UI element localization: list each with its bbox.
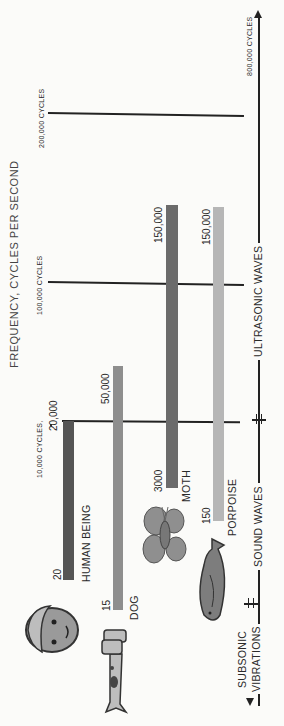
- human-face-icon: [20, 600, 84, 660]
- moth-icon: [140, 505, 190, 565]
- bar-high-dog: 50,000: [100, 373, 111, 404]
- bar-human: [63, 421, 74, 580]
- region-sound: SOUND WAVES: [252, 483, 264, 570]
- region-ultrasonic: ULTRASONIC WAVES: [252, 243, 264, 360]
- bar-low-human: 20: [52, 569, 63, 580]
- bar-name-human: HUMAN BEING: [80, 505, 92, 582]
- bar-moth: [166, 205, 178, 488]
- divider-sound-ultrasonic-x: [256, 414, 262, 424]
- bar-dog: [113, 366, 123, 610]
- axis-arrow-up-icon: [254, 10, 262, 18]
- axis-end-label: 800,000 CYCLES: [246, 17, 253, 76]
- chart-title: FREQUENCY, CYCLES PER SECOND: [8, 160, 20, 368]
- region-subsonic-line1: SUBSONIC: [236, 631, 248, 688]
- bar-name-porpoise: PORPOISE: [226, 479, 238, 536]
- bar-high-porpoise: 150,000: [201, 209, 212, 245]
- ref-label-10000: 10,000 CYCLES,: [36, 420, 43, 478]
- reference-line-200000: [48, 112, 244, 117]
- bar-name-dog: DOG: [128, 595, 140, 620]
- axis-arrow-down-icon: [246, 698, 254, 706]
- ref-label-200000: 200,000 CYCLES: [38, 89, 45, 148]
- ref-label-100000: 100,000 CYCLES: [36, 256, 43, 315]
- bar-low-dog: 15: [101, 600, 112, 611]
- porpoise-icon: [190, 535, 235, 625]
- region-subsonic-line2: VIBRATIONS: [250, 624, 262, 694]
- ref-label-20000: 20,000: [48, 400, 59, 431]
- bar-low-moth: 3000: [153, 470, 164, 492]
- bar-low-porpoise: 150: [201, 507, 212, 524]
- frequency-axis: [258, 14, 260, 706]
- bar-porpoise: [213, 207, 224, 521]
- divider-subsonic-sound-x: [248, 598, 254, 608]
- dog-icon: [96, 624, 136, 716]
- bar-name-moth: MOTH: [180, 470, 192, 502]
- bar-high-moth: 150,000: [153, 207, 164, 243]
